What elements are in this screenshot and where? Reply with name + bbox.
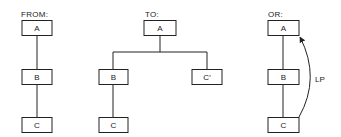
- node-a-label: A: [157, 24, 163, 33]
- panel-or: OR: LP A B C: [268, 10, 325, 133]
- node-a-label: A: [281, 24, 287, 33]
- panel-from: FROM: A B C: [21, 10, 52, 133]
- node-b-label: B: [34, 73, 39, 82]
- node-c: C: [268, 118, 299, 133]
- node-a: A: [22, 21, 52, 36]
- panel-from-label: FROM:: [21, 10, 48, 19]
- node-a: A: [268, 21, 299, 36]
- panel-or-label: OR:: [268, 10, 283, 19]
- node-c-label: C: [281, 121, 287, 130]
- node-b-label: B: [281, 73, 286, 82]
- node-c: C: [99, 118, 128, 133]
- transformation-diagram: FROM: A B C TO: A B: [0, 0, 341, 137]
- node-c-prime: C′: [192, 70, 222, 85]
- node-c-prime-label: C′: [203, 73, 211, 82]
- panel-to: TO: A B C C′: [99, 10, 222, 133]
- node-b: B: [268, 70, 299, 85]
- lp-arrow: [299, 37, 310, 117]
- node-c-label: C: [111, 121, 117, 130]
- lp-arrow-label: LP: [315, 75, 325, 84]
- node-c-label: C: [34, 121, 40, 130]
- node-b: B: [99, 70, 128, 85]
- panel-to-label: TO:: [145, 10, 159, 19]
- node-a-label: A: [34, 24, 40, 33]
- node-b-label: B: [111, 73, 116, 82]
- node-b: B: [22, 70, 52, 85]
- node-c: C: [22, 118, 52, 133]
- node-a: A: [144, 21, 176, 36]
